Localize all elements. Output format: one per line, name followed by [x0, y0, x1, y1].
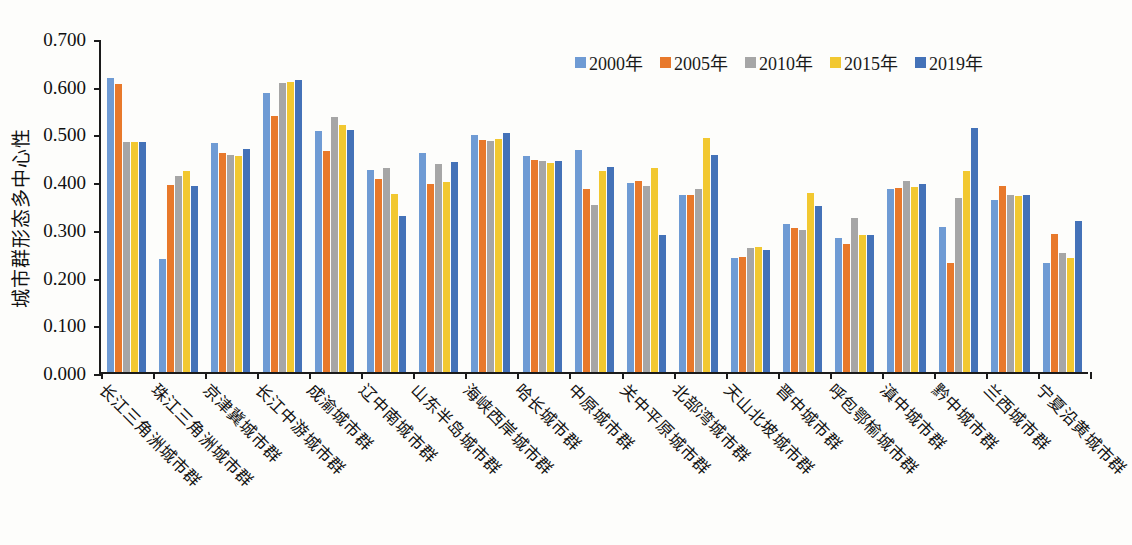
bar[interactable] — [347, 130, 354, 372]
bar[interactable] — [627, 183, 634, 372]
bar[interactable] — [107, 78, 114, 372]
bar[interactable] — [175, 176, 182, 372]
bar[interactable] — [435, 164, 442, 372]
bar[interactable] — [391, 194, 398, 372]
bar[interactable] — [383, 168, 390, 372]
bar[interactable] — [755, 247, 762, 372]
bar[interactable] — [583, 189, 590, 372]
bar[interactable] — [1075, 221, 1082, 372]
bar[interactable] — [659, 235, 666, 372]
bar[interactable] — [471, 135, 478, 372]
bar[interactable] — [323, 151, 330, 372]
bar[interactable] — [523, 156, 530, 372]
bar[interactable] — [687, 195, 694, 372]
legend-item[interactable]: 2000年 — [575, 49, 643, 75]
bar[interactable] — [211, 143, 218, 372]
bar[interactable] — [287, 82, 294, 372]
bar[interactable] — [843, 244, 850, 372]
bar[interactable] — [419, 153, 426, 372]
bar[interactable] — [487, 141, 494, 372]
bar[interactable] — [235, 156, 242, 372]
bar[interactable] — [243, 149, 250, 372]
bar[interactable] — [503, 133, 510, 372]
bar[interactable] — [331, 117, 338, 372]
bar[interactable] — [747, 248, 754, 372]
bar[interactable] — [679, 195, 686, 372]
bar[interactable] — [887, 189, 894, 372]
bar[interactable] — [711, 155, 718, 372]
bar[interactable] — [791, 228, 798, 372]
bar[interactable] — [955, 198, 962, 372]
bar[interactable] — [451, 162, 458, 372]
bar[interactable] — [903, 181, 910, 372]
bar[interactable] — [183, 171, 190, 372]
bar[interactable] — [555, 161, 562, 372]
bar[interactable] — [763, 250, 770, 372]
bar[interactable] — [731, 258, 738, 372]
bar[interactable] — [643, 186, 650, 372]
bar[interactable] — [591, 205, 598, 372]
bar[interactable] — [695, 189, 702, 372]
bar[interactable] — [1059, 253, 1066, 372]
bar[interactable] — [999, 186, 1006, 372]
legend-item[interactable]: 2010年 — [745, 49, 813, 75]
bar[interactable] — [399, 216, 406, 372]
legend-item[interactable]: 2015年 — [830, 49, 898, 75]
bar[interactable] — [131, 142, 138, 372]
bar[interactable] — [375, 179, 382, 372]
bar[interactable] — [783, 224, 790, 372]
bar[interactable] — [443, 182, 450, 372]
bar[interactable] — [919, 184, 926, 372]
bar[interactable] — [295, 80, 302, 372]
bar[interactable] — [227, 155, 234, 372]
bar[interactable] — [947, 263, 954, 372]
bar[interactable] — [1051, 234, 1058, 372]
bar[interactable] — [263, 93, 270, 372]
bar[interactable] — [939, 227, 946, 372]
bar[interactable] — [159, 259, 166, 372]
bar[interactable] — [339, 125, 346, 372]
bar[interactable] — [279, 83, 286, 372]
bar[interactable] — [859, 235, 866, 372]
bar[interactable] — [1007, 195, 1014, 372]
bar[interactable] — [835, 238, 842, 372]
bar[interactable] — [1043, 263, 1050, 372]
bar[interactable] — [479, 140, 486, 372]
bar[interactable] — [635, 181, 642, 372]
bar[interactable] — [427, 184, 434, 372]
bar[interactable] — [139, 142, 146, 372]
bar[interactable] — [807, 193, 814, 372]
bar[interactable] — [991, 200, 998, 372]
bar[interactable] — [219, 153, 226, 372]
legend-item[interactable]: 2005年 — [660, 49, 728, 75]
bar[interactable] — [867, 235, 874, 372]
bar[interactable] — [495, 139, 502, 372]
bar[interactable] — [651, 168, 658, 372]
bar[interactable] — [115, 84, 122, 372]
bar[interactable] — [1015, 196, 1022, 372]
bar[interactable] — [971, 128, 978, 372]
bar[interactable] — [963, 171, 970, 372]
bar[interactable] — [799, 230, 806, 372]
bar[interactable] — [271, 116, 278, 372]
bar[interactable] — [703, 138, 710, 372]
bar[interactable] — [575, 150, 582, 372]
bar[interactable] — [599, 171, 606, 372]
bar[interactable] — [739, 257, 746, 372]
bar[interactable] — [895, 188, 902, 372]
bar[interactable] — [531, 160, 538, 372]
bar[interactable] — [167, 185, 174, 372]
bar[interactable] — [1023, 195, 1030, 372]
legend-item[interactable]: 2019年 — [915, 49, 983, 75]
bar[interactable] — [815, 206, 822, 372]
bar[interactable] — [1067, 258, 1074, 372]
bar[interactable] — [315, 131, 322, 372]
bar[interactable] — [123, 142, 130, 372]
bar[interactable] — [539, 161, 546, 372]
bar[interactable] — [191, 186, 198, 372]
bar[interactable] — [851, 218, 858, 372]
bar[interactable] — [911, 187, 918, 372]
bar[interactable] — [367, 170, 374, 372]
bar[interactable] — [547, 163, 554, 372]
bar[interactable] — [607, 167, 614, 372]
